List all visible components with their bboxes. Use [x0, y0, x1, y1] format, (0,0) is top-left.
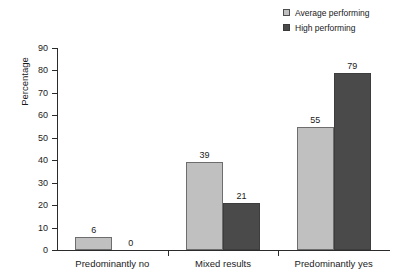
legend-item-average-performing: Average performing — [283, 7, 370, 18]
y-axis-tick-label: 30 — [8, 178, 48, 187]
legend-label-average-performing: Average performing — [295, 8, 370, 18]
x-axis-tick — [168, 251, 169, 256]
bar-high-performing — [334, 73, 371, 250]
dark-gray-square-icon — [283, 24, 290, 31]
y-axis-tick — [52, 250, 57, 251]
y-axis-tick-label: 0 — [8, 246, 48, 255]
bar-value-label: 21 — [223, 191, 260, 201]
bar-average-performing — [297, 127, 334, 250]
plot-area: 6039215579 — [57, 48, 389, 250]
y-axis-tick-label: 40 — [8, 156, 48, 165]
y-axis-title: Percentage — [19, 22, 30, 142]
x-axis-category-label: Predominantly no — [57, 258, 168, 270]
bar-value-label: 0 — [112, 238, 149, 248]
legend-label-high-performing: High performing — [295, 23, 355, 33]
y-axis-tick-label: 70 — [8, 88, 48, 97]
bar-value-label: 79 — [334, 61, 371, 71]
bar-average-performing — [186, 162, 223, 250]
light-gray-square-icon — [283, 9, 290, 16]
y-axis-tick-label: 60 — [8, 111, 48, 120]
y-axis-tick-label: 10 — [8, 223, 48, 232]
y-axis-tick-label: 80 — [8, 66, 48, 75]
bar-value-label: 39 — [186, 150, 223, 160]
x-axis-tick — [278, 251, 279, 256]
y-axis-tick-label: 20 — [8, 201, 48, 210]
bar-chart: Average performing High performing Perce… — [0, 0, 404, 280]
x-axis-category-label: Mixed results — [168, 258, 279, 270]
y-axis-tick-label: 50 — [8, 133, 48, 142]
bar-value-label: 55 — [297, 115, 334, 125]
x-axis-line — [57, 250, 390, 251]
chart-legend: Average performing High performing — [283, 7, 370, 33]
bar-high-performing — [223, 203, 260, 250]
y-axis-tick-label: 90 — [8, 44, 48, 53]
bar-average-performing — [75, 237, 112, 250]
x-axis-category-label: Predominantly yes — [278, 258, 389, 270]
legend-item-high-performing: High performing — [283, 22, 370, 33]
bar-value-label: 6 — [75, 225, 112, 235]
